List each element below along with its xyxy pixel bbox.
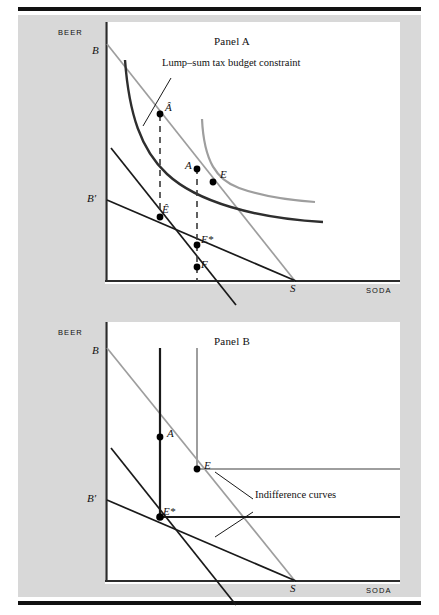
panel-b-label-b: B xyxy=(92,344,99,356)
panel-a-label-b-prime: B′ xyxy=(87,192,96,204)
panel-b-x-axis-label: SODA xyxy=(366,586,392,595)
panel-a-label-e-star: E* xyxy=(201,233,213,245)
panel-b-label-s: S xyxy=(290,582,296,594)
panel-b-y-axis-label: BEER xyxy=(58,328,83,337)
panel-a-indifference-curve-low xyxy=(125,60,323,222)
panel-b-annotation: Indifference curves xyxy=(255,489,336,500)
panel-a-title: Panel A xyxy=(214,35,250,47)
panel-b-point-a xyxy=(157,434,164,441)
panel-a-y-axis-label: BEER xyxy=(58,28,83,37)
panel-a-x-axis-label: SODA xyxy=(366,286,392,295)
panel-a-label-a: A xyxy=(185,159,192,171)
panel-a-original-budget-line xyxy=(107,44,295,281)
panel-b-original-budget-line xyxy=(107,348,295,581)
panel-b-annotation-leader-lower xyxy=(215,512,253,537)
panel-b-label-e: E xyxy=(204,459,211,471)
panel-a-point-e-star xyxy=(194,242,201,249)
panel-b-annotation-leader-upper xyxy=(215,472,253,499)
panel-b-label-b-prime: B′ xyxy=(87,492,96,504)
panel-b-title: Panel B xyxy=(214,335,250,347)
panel-a-point-e xyxy=(210,179,217,186)
panel-a-label-s: S xyxy=(290,282,296,294)
panel-b-graphic xyxy=(105,322,400,584)
panel-a-annotation: Lump–sum tax budget constraint xyxy=(162,57,301,68)
panel-b-point-e xyxy=(194,466,201,473)
panel-a-point-a xyxy=(194,166,201,173)
panel-a-label-e-hat: Ê xyxy=(162,203,169,215)
bottom-rule xyxy=(18,601,421,605)
panel-b-commodity-tax-budget-line xyxy=(107,500,296,581)
panel-b-label-a: A xyxy=(167,427,174,439)
panel-a-label-b: B xyxy=(92,44,99,56)
panel-b-indifference-curve-high xyxy=(197,348,400,469)
panel-a-indifference-curve-high xyxy=(202,119,315,202)
panel-a-label-f: F xyxy=(201,258,208,270)
panel-a-point-a-hat xyxy=(157,111,164,118)
panel-a-point-f xyxy=(194,264,201,271)
panel-a-label-a-hat: Â xyxy=(165,101,172,113)
top-rule xyxy=(18,7,421,11)
panel-a-label-e: E xyxy=(220,168,227,180)
panel-b xyxy=(105,322,400,584)
panel-b-label-e-star: E* xyxy=(163,505,175,517)
